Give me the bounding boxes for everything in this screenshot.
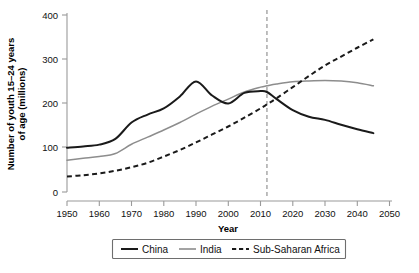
x-tick-label-2030: 2030 bbox=[314, 208, 335, 219]
x-tick-label-1960: 1960 bbox=[89, 208, 110, 219]
series-line-china bbox=[67, 81, 373, 147]
x-tick-label-1980: 1980 bbox=[153, 208, 174, 219]
y-axis-title: Number of youth 15–24 years of age (mill… bbox=[5, 38, 27, 171]
x-tick-label-1970: 1970 bbox=[121, 208, 142, 219]
legend-label-india: India bbox=[200, 244, 222, 255]
x-axis-title: Year bbox=[218, 223, 238, 234]
x-tick-label-2050: 2050 bbox=[379, 208, 400, 219]
legend-label-china: China bbox=[142, 244, 169, 255]
x-tick-label-2020: 2020 bbox=[282, 208, 303, 219]
y-tick-label-100: 100 bbox=[42, 142, 58, 153]
chart-legend: China India Sub-Saharan Africa bbox=[113, 240, 346, 259]
chart-figure: Number of youth 15–24 years of age (mill… bbox=[0, 0, 419, 273]
x-tick-label-1990: 1990 bbox=[185, 208, 206, 219]
y-axis-title-line2: of age (millions) bbox=[16, 68, 27, 141]
x-tick-label-2010: 2010 bbox=[250, 208, 271, 219]
y-tick-label-200: 200 bbox=[42, 98, 58, 109]
y-axis-ticks: 400 300 200 100 0 bbox=[42, 10, 67, 198]
legend-label-sub-saharan-africa: Sub-Saharan Africa bbox=[253, 244, 340, 255]
x-tick-label-1950: 1950 bbox=[56, 208, 77, 219]
youth-population-line-chart: Number of youth 15–24 years of age (mill… bbox=[0, 0, 419, 273]
y-axis-title-line1: Number of youth 15–24 years bbox=[5, 38, 16, 171]
y-tick-label-0: 0 bbox=[53, 187, 58, 198]
x-tick-label-2000: 2000 bbox=[218, 208, 239, 219]
x-axis-ticks: 1950 1960 1970 1980 1990 2000 2010 2020 … bbox=[56, 201, 400, 219]
y-tick-label-300: 300 bbox=[42, 54, 58, 65]
series-line-sub-saharan-africa bbox=[67, 39, 373, 176]
x-tick-label-2040: 2040 bbox=[347, 208, 368, 219]
y-tick-label-400: 400 bbox=[42, 10, 58, 21]
